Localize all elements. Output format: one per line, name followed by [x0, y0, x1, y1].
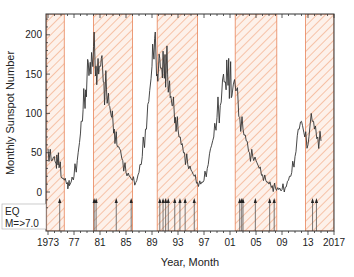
- sunspot-chart: 1973778185899397010509132017 05010015020…: [0, 0, 354, 277]
- legend: EQ M=>7.0: [2, 204, 46, 229]
- y-axis-title: Monthly Sunspot Number: [4, 51, 16, 175]
- x-tick-label: 85: [120, 237, 132, 248]
- shaded-region: [305, 14, 334, 231]
- x-tick-label: 77: [68, 237, 80, 248]
- x-tick-label: 05: [250, 237, 262, 248]
- shaded-region: [47, 14, 65, 231]
- x-tick-label: 93: [172, 237, 184, 248]
- x-tick-label: 97: [198, 237, 210, 248]
- x-tick-label: 01: [224, 237, 236, 248]
- legend-magnitude: M=>7.0: [5, 218, 39, 229]
- x-tick-label: 13: [302, 237, 314, 248]
- y-tick-label: 0: [36, 187, 42, 198]
- y-tick-label: 150: [25, 69, 42, 80]
- y-tick-label: 50: [31, 147, 43, 158]
- x-axis-title: Year, Month: [161, 256, 219, 268]
- x-tick-label: 09: [276, 237, 288, 248]
- x-tick-label: 81: [94, 237, 106, 248]
- y-tick-label: 200: [25, 29, 42, 40]
- x-tick-label: 1973: [37, 237, 60, 248]
- x-tick-label: 89: [146, 237, 158, 248]
- solar-minimum-shaded-regions: [47, 14, 334, 231]
- y-tick-label: 100: [25, 108, 42, 119]
- x-tick-label: 2017: [323, 237, 346, 248]
- legend-eq: EQ: [5, 206, 20, 217]
